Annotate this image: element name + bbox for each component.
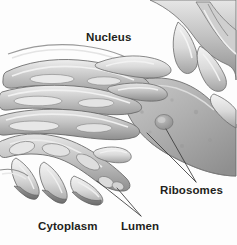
label-nucleus: Nucleus bbox=[86, 32, 131, 44]
er-diagram-figure: Nucleus Ribosomes Cytoplasm Lumen bbox=[0, 0, 237, 245]
label-lumen: Lumen bbox=[121, 221, 159, 233]
label-cytoplasm: Cytoplasm bbox=[38, 221, 98, 233]
label-ribosomes: Ribosomes bbox=[160, 185, 223, 197]
